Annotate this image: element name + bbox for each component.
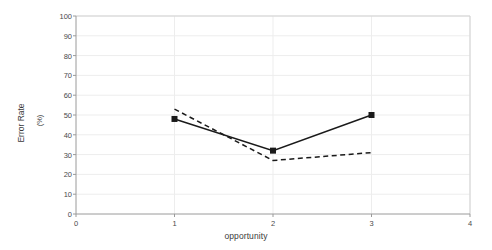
data-point-marker: [172, 116, 178, 122]
data-point-marker: [369, 112, 375, 118]
chart-container: Error Rate (%) 0102030405060708090100 01…: [0, 0, 492, 250]
x-axis-title: opportunity: [0, 231, 492, 241]
plot-area: [0, 0, 492, 250]
data-point-marker: [270, 148, 276, 154]
